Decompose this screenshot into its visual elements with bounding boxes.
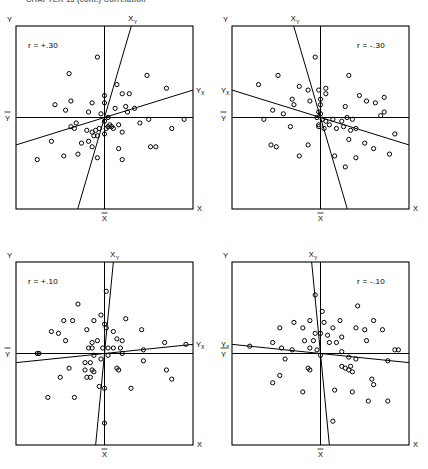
regression-label-x-on-y: X [309, 250, 314, 259]
scatter-panel-2: YXYXXYYXr = -.30 [221, 14, 419, 223]
data-point [85, 128, 89, 132]
scatterplot-matrix: YXYXXYYXr = +.30YXYXXYYXr = -.30YXYXXYYX… [0, 0, 428, 469]
data-point [184, 342, 188, 346]
correlation-label: r = -.30 [357, 41, 385, 50]
data-point [340, 335, 344, 339]
data-point [292, 320, 296, 324]
data-point [333, 154, 337, 158]
data-point [331, 419, 335, 423]
data-point [148, 145, 152, 149]
data-point [79, 141, 83, 145]
data-point [354, 326, 358, 330]
data-point [370, 377, 374, 381]
data-point [340, 119, 344, 123]
data-point [92, 318, 96, 322]
axis-label-y: Y [223, 251, 228, 260]
data-point [140, 328, 144, 332]
data-point [88, 361, 92, 365]
data-point [350, 370, 354, 374]
data-point [327, 340, 331, 344]
data-point [350, 390, 354, 394]
data-point [308, 318, 312, 322]
regression-label-y-on-x-subscript: X [201, 90, 205, 96]
y-mean-label: Y [5, 350, 10, 359]
data-point [386, 399, 390, 403]
data-point [315, 348, 319, 352]
data-point [111, 329, 115, 333]
data-point [380, 328, 384, 332]
correlation-label: r = -.10 [357, 277, 385, 286]
data-point [138, 121, 142, 125]
axis-label-x: X [197, 440, 202, 449]
data-point [127, 92, 131, 96]
data-point [83, 368, 87, 372]
data-point [97, 126, 101, 130]
regression-label-x-on-y: X [291, 14, 296, 23]
data-point [276, 73, 280, 77]
data-point [306, 143, 310, 147]
x-mean-label: X [318, 450, 323, 459]
data-point [67, 366, 71, 370]
axis-label-x: X [197, 204, 202, 213]
axis-label-y: Y [223, 15, 228, 24]
data-point [354, 156, 358, 160]
data-point [313, 55, 317, 59]
data-point [288, 125, 292, 129]
data-point [113, 106, 117, 110]
data-point [86, 139, 90, 143]
data-point [85, 328, 89, 332]
data-point [95, 339, 99, 343]
data-point [90, 145, 94, 149]
data-point [120, 130, 124, 134]
data-point [372, 147, 376, 151]
data-point [308, 346, 312, 350]
data-point [63, 108, 67, 112]
data-point [338, 318, 342, 322]
data-point [372, 318, 376, 322]
axis-label-y: Y [7, 15, 12, 24]
data-point [90, 340, 94, 344]
x-mean-label: X [102, 214, 107, 223]
data-point [90, 101, 94, 105]
data-point [347, 137, 351, 141]
data-point [124, 317, 128, 321]
data-point [76, 302, 80, 306]
data-point [324, 92, 328, 96]
data-point [46, 395, 50, 399]
correlation-label: r = +.30 [28, 41, 58, 50]
data-point [348, 364, 352, 368]
axis-label-y: Y [7, 251, 12, 260]
data-point [271, 340, 275, 344]
regression-label-x-on-y: X [128, 14, 133, 23]
data-point [278, 373, 282, 377]
x-mean-label: X [102, 450, 107, 459]
data-point [297, 154, 301, 158]
data-point [120, 92, 124, 96]
data-point [327, 123, 331, 127]
data-point [366, 399, 370, 403]
data-point [111, 346, 115, 350]
data-point [297, 84, 301, 88]
data-point [117, 147, 121, 151]
data-point [170, 377, 174, 381]
data-point [324, 86, 328, 90]
data-point [348, 128, 352, 132]
regression-label-x-on-y-subscript: Y [296, 19, 300, 25]
regression-label-x-on-y: X [110, 250, 115, 259]
data-point [363, 328, 367, 332]
data-point [278, 326, 282, 330]
data-point [382, 110, 386, 114]
data-point [382, 95, 386, 99]
data-point [393, 132, 397, 136]
data-point [269, 143, 273, 147]
data-point [357, 93, 361, 97]
data-point [74, 121, 78, 125]
data-point [95, 156, 99, 160]
data-point [356, 304, 360, 308]
data-point [347, 73, 351, 77]
data-point [334, 126, 338, 130]
data-point [333, 388, 337, 392]
correlation-label: r = +.10 [28, 277, 58, 286]
data-point [283, 357, 287, 361]
data-point [271, 381, 275, 385]
